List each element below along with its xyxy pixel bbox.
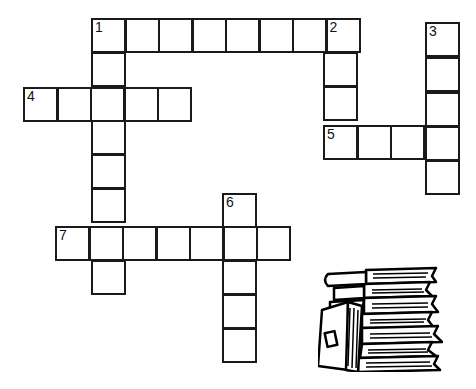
crossword-cell[interactable] [192, 18, 227, 53]
crossword-cell[interactable] [157, 87, 192, 122]
clue-number: 6 [226, 195, 234, 210]
crossword-cell[interactable] [91, 188, 126, 223]
crossword-cell[interactable] [91, 120, 126, 155]
crossword-cell[interactable] [124, 87, 159, 122]
clue-number: 1 [95, 20, 103, 35]
crossword-cell[interactable] [122, 226, 157, 261]
crossword-cell[interactable] [425, 92, 460, 127]
clue-number: 2 [330, 20, 338, 35]
crossword-cell[interactable]: 2 [326, 18, 361, 53]
crossword-cell[interactable] [156, 226, 191, 261]
crossword-cell[interactable] [90, 87, 125, 122]
crossword-cell[interactable] [225, 18, 260, 53]
crossword-cell[interactable] [222, 328, 257, 363]
crossword-cell[interactable] [91, 154, 126, 189]
crossword-cell[interactable]: 1 [91, 18, 126, 53]
crossword-cell[interactable] [91, 260, 126, 295]
crossword-cell[interactable] [223, 226, 258, 261]
crossword-cell[interactable] [57, 87, 92, 122]
crossword-cell[interactable] [357, 125, 392, 160]
crossword-cell[interactable] [259, 18, 294, 53]
crossword-cell[interactable]: 3 [425, 22, 460, 57]
crossword-cell[interactable]: 6 [222, 193, 257, 228]
crossword-cell[interactable] [425, 126, 460, 161]
crossword-cell[interactable] [292, 18, 327, 53]
crossword-cell[interactable] [89, 226, 124, 261]
crossword-cell[interactable] [222, 294, 257, 329]
crossword-cell[interactable] [425, 160, 460, 195]
crossword-cell[interactable]: 7 [55, 226, 90, 261]
clue-number: 4 [27, 89, 35, 104]
books-illustration-icon [318, 262, 443, 372]
crossword-cell[interactable] [425, 57, 460, 92]
crossword-cell[interactable] [256, 226, 291, 261]
crossword-cell[interactable] [125, 18, 160, 53]
crossword-cell[interactable] [222, 260, 257, 295]
crossword-cell[interactable] [323, 86, 358, 121]
crossword-cell[interactable]: 5 [323, 125, 358, 160]
clue-number: 7 [59, 228, 67, 243]
crossword-cell[interactable] [189, 226, 224, 261]
crossword-cell[interactable] [158, 18, 193, 53]
crossword-cell[interactable]: 4 [23, 87, 58, 122]
crossword-cell[interactable] [323, 52, 358, 87]
clue-number: 3 [429, 24, 437, 39]
crossword-cell[interactable] [390, 125, 425, 160]
crossword-cell[interactable] [91, 52, 126, 87]
clue-number: 5 [327, 127, 335, 142]
